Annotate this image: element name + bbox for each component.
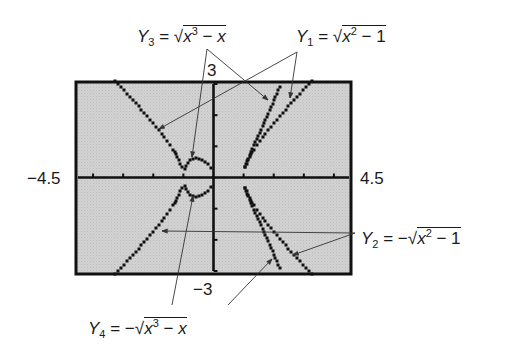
equation-y1: Y1 = √x2 − 1 xyxy=(296,26,386,48)
equation-y4: Y4 = −√x3 − x xyxy=(88,318,187,340)
ymin-label: −3 xyxy=(193,281,212,298)
xmin-label: −4.5 xyxy=(27,170,61,187)
xmax-label: 4.5 xyxy=(360,170,384,187)
graph-figure: −4.5 4.5 3 −3 Y3 = √x3 − x Y1 = √x2 − 1 … xyxy=(0,0,519,352)
equation-y3: Y3 = √x3 − x xyxy=(137,26,226,48)
calculator-graph-window xyxy=(0,0,519,352)
equation-y2: Y2 = −√x2 − 1 xyxy=(361,228,461,250)
ymax-label: 3 xyxy=(207,62,216,79)
